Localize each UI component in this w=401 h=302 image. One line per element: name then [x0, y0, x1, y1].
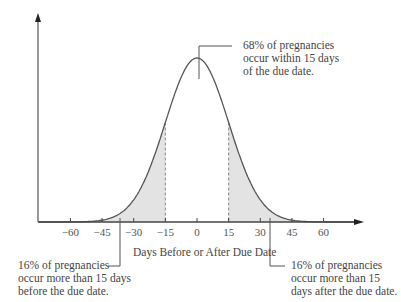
left-annotation: 16% of pregnancies occur more than 15 da… — [18, 259, 131, 298]
x-tick-label: −45 — [93, 226, 111, 238]
left-annotation-line-2: occur more than 15 days — [18, 272, 131, 285]
x-tick-label: 0 — [194, 226, 200, 238]
right-annotation-line-3: days after the due date. — [291, 285, 397, 298]
shaded-tail-regions — [39, 123, 356, 223]
shaded-region-right — [229, 123, 356, 223]
x-tick-label: 60 — [318, 226, 330, 238]
center-annotation-line-2: occur within 15 days — [243, 52, 339, 65]
right-annotation-line-2: occur more than 15 — [291, 272, 397, 285]
shaded-region-left — [39, 123, 166, 223]
right-annotation-line-1: 16% of pregnancies — [291, 259, 397, 272]
x-axis-label: Days Before or After Due Date — [133, 246, 276, 259]
left-annotation-line-1: 16% of pregnancies — [18, 259, 131, 272]
x-tick-label: −15 — [157, 226, 175, 238]
x-tick-label: 30 — [255, 226, 267, 238]
x-tick-label: −30 — [125, 226, 143, 238]
y-axis-arrow-icon — [35, 13, 41, 22]
left-annotation-line-3: before the due date. — [18, 285, 131, 298]
x-tick-label: 45 — [286, 226, 298, 238]
center-annotation: 68% of pregnancies occur within 15 days … — [243, 39, 339, 78]
x-tick-label: 15 — [223, 226, 235, 238]
sigma-dashed-lines — [165, 123, 228, 222]
x-axis-arrow-icon — [354, 219, 364, 225]
center-annotation-line-1: 68% of pregnancies — [243, 39, 339, 52]
right-annotation: 16% of pregnancies occur more than 15 da… — [291, 259, 397, 298]
bell-curve — [39, 58, 356, 222]
x-tick-label: −60 — [62, 226, 80, 238]
center-annotation-line-3: of the due date. — [243, 65, 339, 78]
